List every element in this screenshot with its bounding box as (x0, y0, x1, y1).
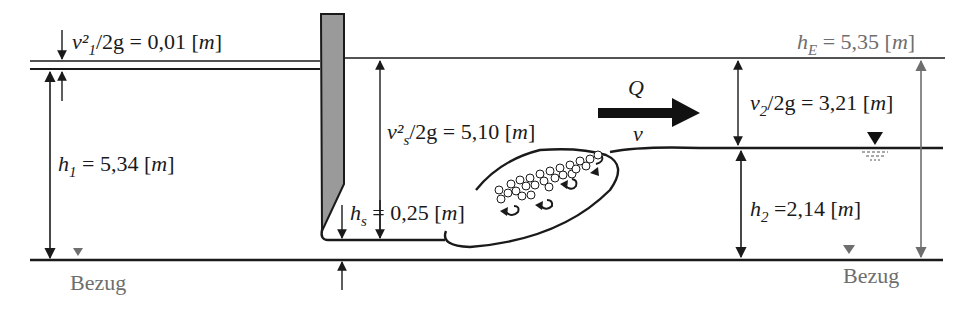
sluice-gate (321, 14, 344, 231)
label-hE-energy-head: hE = 5,35 [m] (797, 29, 915, 58)
datum-marker-right (843, 245, 855, 254)
gate-jet-floor (322, 230, 445, 240)
flow-direction-arrow (598, 98, 700, 127)
label-v1-velocity-head: v²1/2g = 0,01 [m] (72, 29, 222, 58)
water-surface-symbol (862, 132, 888, 160)
label-hs-jet-depth: hs = 0,25 [m] (350, 200, 465, 229)
datum-marker-left (73, 248, 83, 256)
air-bubbles (495, 151, 602, 203)
label-h2-depth: h2 =2,14 [m] (750, 196, 861, 225)
label-discharge-Q: Q (628, 75, 644, 100)
hydraulic-jump-diagram: v²1/2g = 0,01 [m] h1 = 5,34 [m] v²s/2g =… (0, 0, 967, 312)
label-h1-depth: h1 = 5,34 [m] (58, 151, 174, 180)
label-datum-right: Bezug (843, 263, 899, 288)
label-datum-left: Bezug (70, 270, 126, 295)
label-velocity-v: v (633, 121, 643, 146)
label-vs-velocity-head: v²s/2g = 5,10 [m] (387, 119, 535, 148)
label-v2-velocity-head: v2/2g = 3,21 [m] (750, 90, 893, 119)
